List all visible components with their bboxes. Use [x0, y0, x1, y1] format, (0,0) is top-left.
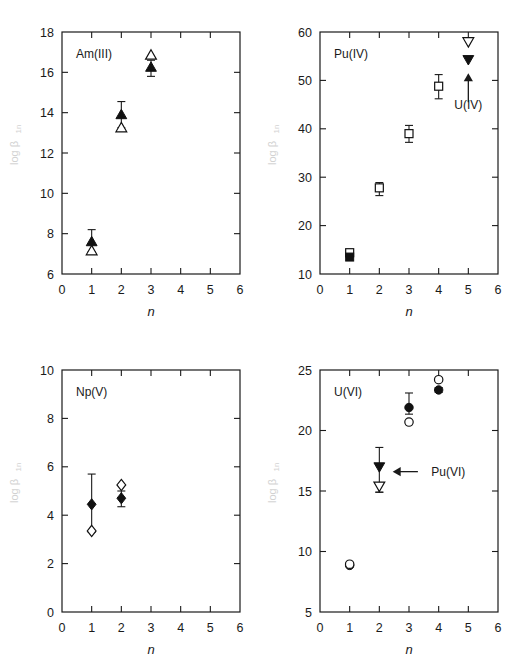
- data-point-diamond-open: [117, 479, 126, 490]
- data-point-circle-open: [345, 560, 353, 568]
- x-axis-label: n: [147, 304, 154, 319]
- x-tick-label: 3: [148, 283, 155, 297]
- y-axis-label-text: log β: [266, 479, 278, 503]
- y-axis-label: log β1n: [266, 463, 281, 503]
- x-tick-label: 6: [237, 621, 244, 635]
- x-tick-label: 5: [465, 621, 472, 635]
- annotation-label: U(IV): [454, 98, 482, 112]
- y-tick-label: 18: [40, 26, 54, 40]
- x-axis-label: n: [147, 642, 154, 657]
- x-tick-label: 6: [495, 621, 502, 635]
- y-tick-label: 20: [298, 219, 312, 233]
- x-tick-label: 5: [207, 621, 214, 635]
- data-point-triangle-down-open: [463, 38, 474, 47]
- y-tick-label: 25: [298, 364, 312, 378]
- data-point-diamond-filled: [117, 493, 126, 504]
- y-tick-label: 6: [47, 268, 54, 282]
- y-tick-label: 20: [298, 424, 312, 438]
- y-axis-label: log β1n: [8, 125, 23, 165]
- y-axis-label-subscript: 1n: [14, 125, 23, 134]
- x-tick-label: 4: [435, 283, 442, 297]
- y-axis-label-text: log β: [266, 141, 278, 165]
- data-point-triangle-down-filled: [374, 463, 385, 472]
- x-tick-label: 0: [317, 283, 324, 297]
- data-point-square-open: [375, 184, 383, 192]
- annotation-label: Pu(VI): [431, 465, 465, 479]
- y-tick-label: 5: [305, 606, 312, 620]
- x-tick-label: 1: [346, 621, 353, 635]
- x-tick-label: 3: [406, 283, 413, 297]
- x-tick-label: 4: [435, 621, 442, 635]
- data-point-square-open: [405, 130, 413, 138]
- chart-bottom-left: 0123456n0246810log β1nNp(V): [0, 348, 258, 671]
- panel-title: Pu(IV): [334, 47, 368, 61]
- data-point-triangle-up-open: [146, 50, 157, 59]
- y-tick-label: 15: [298, 485, 312, 499]
- x-tick-label: 0: [59, 621, 66, 635]
- data-layer: [345, 375, 442, 569]
- y-tick-label: 14: [40, 106, 54, 120]
- x-tick-label: 2: [376, 283, 383, 297]
- x-tick-label: 4: [177, 621, 184, 635]
- y-tick-label: 6: [47, 460, 54, 474]
- chart-top-left: 0123456n681012141618log β1nAm(III): [0, 10, 258, 348]
- x-tick-label: 6: [495, 283, 502, 297]
- x-tick-label: 2: [118, 621, 125, 635]
- y-tick-label: 50: [298, 74, 312, 88]
- y-axis: 510152025: [298, 364, 498, 620]
- chart-top-right: 0123456n102030405060log β1nPu(IV)U(IV): [258, 10, 516, 348]
- annotation-arrowhead: [464, 73, 473, 81]
- panel-np-v: 0123456n0246810log β1nNp(V): [0, 348, 258, 671]
- panel-title: Np(V): [76, 385, 107, 399]
- y-axis-label-subscript: 1n: [272, 125, 281, 134]
- data-point-square-open: [435, 82, 443, 90]
- x-tick-label: 3: [148, 621, 155, 635]
- data-layer: [87, 474, 125, 536]
- data-point-triangle-up-filled: [146, 62, 157, 71]
- panel-title: U(VI): [334, 385, 362, 399]
- x-tick-label: 2: [118, 283, 125, 297]
- x-axis-label: n: [405, 304, 412, 319]
- y-axis-label-text: log β: [8, 141, 20, 165]
- y-tick-label: 10: [40, 187, 54, 201]
- y-axis-label-subscript: 1n: [272, 463, 281, 472]
- x-axis: 0123456: [59, 370, 244, 635]
- y-tick-label: 10: [298, 268, 312, 282]
- y-tick-label: 10: [40, 364, 54, 378]
- panel-title: Am(III): [76, 47, 112, 61]
- panel-pu-iv: 0123456n102030405060log β1nPu(IV)U(IV): [258, 10, 516, 348]
- y-tick-label: 16: [40, 66, 54, 80]
- x-tick-label: 1: [346, 283, 353, 297]
- chart-bottom-right: 0123456n510152025log β1nU(VI)Pu(VI): [258, 348, 516, 671]
- y-tick-label: 2: [47, 557, 54, 571]
- data-point-circle-filled: [434, 386, 442, 394]
- data-point-triangle-down-filled: [463, 56, 474, 65]
- y-tick-label: 30: [298, 171, 312, 185]
- data-point-triangle-down-open: [374, 482, 385, 491]
- panel-u-vi: 0123456n510152025log β1nU(VI)Pu(VI): [258, 348, 516, 671]
- y-tick-label: 8: [47, 227, 54, 241]
- y-tick-label: 0: [47, 606, 54, 620]
- x-tick-label: 1: [88, 283, 95, 297]
- data-point-diamond-filled: [87, 499, 96, 510]
- y-axis-label-text: log β: [8, 479, 20, 503]
- x-tick-label: 3: [406, 621, 413, 635]
- x-axis-label: n: [405, 642, 412, 657]
- data-point-diamond-open: [87, 525, 96, 536]
- x-tick-label: 1: [88, 621, 95, 635]
- data-point-triangle-up-open: [86, 245, 97, 254]
- data-point-square-filled: [346, 253, 354, 261]
- y-tick-label: 8: [47, 412, 54, 426]
- x-tick-label: 0: [317, 621, 324, 635]
- y-axis-label: log β1n: [8, 463, 23, 503]
- x-axis: 0123456: [317, 32, 502, 297]
- y-tick-label: 40: [298, 122, 312, 136]
- x-tick-label: 0: [59, 283, 66, 297]
- x-tick-label: 4: [177, 283, 184, 297]
- annotation-U(IV): U(IV): [454, 73, 482, 111]
- y-tick-label: 60: [298, 26, 312, 40]
- y-tick-label: 10: [298, 545, 312, 559]
- data-point-triangle-up-filled: [116, 109, 127, 118]
- x-tick-label: 6: [237, 283, 244, 297]
- y-axis-label-subscript: 1n: [14, 463, 23, 472]
